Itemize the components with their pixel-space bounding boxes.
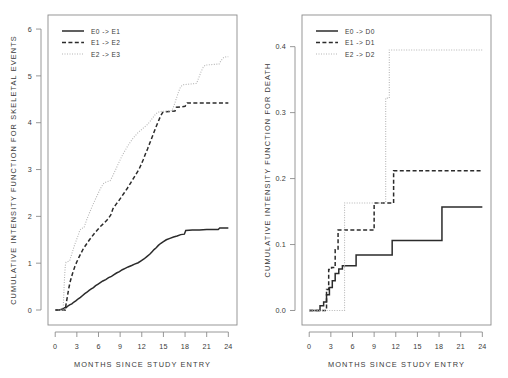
x-tick-label: 24	[224, 342, 232, 351]
x-tick-label: 6	[350, 342, 354, 351]
x-tick-label: 0	[53, 342, 57, 351]
series-line-2	[309, 50, 482, 311]
legend-label-2: E2 -> D2	[345, 51, 375, 58]
x-tick-label: 15	[413, 342, 421, 351]
chart-panel-death: 036912151821240.00.10.20.30.4MONTHS SINC…	[254, 0, 508, 378]
y-tick-label: 0.4	[275, 42, 286, 51]
x-tick-label: 12	[392, 342, 400, 351]
x-tick-label: 21	[202, 342, 210, 351]
y-tick-label: 0.3	[275, 108, 286, 117]
x-tick-label: 12	[138, 342, 146, 351]
x-tick-label: 0	[307, 342, 311, 351]
x-tick-label: 3	[329, 342, 333, 351]
series-line-0	[55, 228, 228, 310]
y-tick-label: 2	[28, 212, 32, 221]
x-tick-label: 18	[435, 342, 443, 351]
x-axis-label: MONTHS SINCE STUDY ENTRY	[74, 360, 211, 369]
y-tick-label: 6	[28, 25, 32, 34]
legend-label-1: E1 -> E2	[91, 39, 120, 46]
y-tick-label: 0.0	[275, 306, 286, 315]
legend-label-2: E2 -> E3	[91, 51, 120, 58]
y-tick-label: 0	[28, 306, 32, 315]
legend-label-1: E1 -> D1	[345, 39, 375, 46]
y-tick-label: 3	[28, 165, 32, 174]
legend-label-0: E0 -> D0	[345, 28, 375, 35]
y-tick-label: 4	[28, 118, 32, 127]
y-axis-label: CUMULATIVE INTENSITY FUNCTION FOR SKELET…	[9, 35, 18, 305]
series-line-1	[55, 103, 228, 310]
plot-frame	[48, 15, 237, 325]
legend-label-0: E0 -> E1	[91, 28, 120, 35]
x-tick-label: 3	[75, 342, 79, 351]
x-axis-label: MONTHS SINCE STUDY ENTRY	[328, 360, 465, 369]
x-tick-label: 9	[118, 342, 122, 351]
x-tick-label: 18	[181, 342, 189, 351]
x-tick-label: 6	[96, 342, 100, 351]
x-tick-label: 15	[159, 342, 167, 351]
x-tick-label: 9	[372, 342, 376, 351]
chart-svg-death: 036912151821240.00.10.20.30.4MONTHS SINC…	[254, 0, 508, 378]
y-axis-label: CUMULATIVE INTENSITY FUNCTION FOR DEATH	[263, 63, 272, 278]
y-tick-label: 5	[28, 72, 32, 81]
x-tick-label: 21	[456, 342, 464, 351]
series-line-2	[55, 57, 228, 310]
y-tick-label: 1	[28, 259, 32, 268]
x-tick-label: 24	[478, 342, 486, 351]
y-tick-label: 0.2	[275, 174, 286, 183]
figure-container: 036912151821240123456MONTHS SINCE STUDY …	[0, 0, 508, 378]
y-tick-label: 0.1	[275, 240, 286, 249]
chart-svg-skeletal-events: 036912151821240123456MONTHS SINCE STUDY …	[0, 0, 254, 378]
chart-panel-skeletal-events: 036912151821240123456MONTHS SINCE STUDY …	[0, 0, 254, 378]
